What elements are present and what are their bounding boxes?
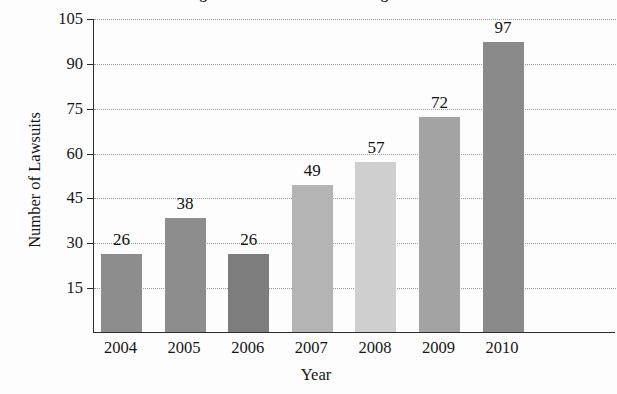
bar-value-label: 38 [177,195,194,212]
bar-value-label: 72 [431,94,448,111]
chart-title: Changes in Lawsuits Filed During the Yea… [0,0,617,3]
y-tick-mark [87,109,94,110]
bar[interactable] [165,218,206,332]
y-tick-label: 60 [67,145,84,162]
bar-slot: 49 [292,18,333,332]
x-tick-label: 2006 [231,338,264,358]
bar[interactable] [483,42,524,332]
bar-value-label: 26 [240,231,257,248]
y-tick-mark [87,243,94,244]
y-tick-mark [87,154,94,155]
bar[interactable] [228,254,269,332]
bar[interactable] [101,254,142,332]
y-tick-mark [87,198,94,199]
bar-slot: 72 [419,18,460,332]
y-axis-title: Number of Lawsuits [25,40,45,320]
bar-slot: 26 [228,18,269,332]
x-tick-label: 2004 [104,338,137,358]
bar-slot: 38 [165,18,206,332]
y-tick-label: 45 [67,190,84,207]
x-tick-label: 2010 [486,338,519,358]
bar-slot: 57 [355,18,396,332]
bar-slot: 97 [483,18,524,332]
y-tick-label: 75 [67,100,84,117]
bar-series: 26382649577297 [94,18,616,332]
bar-value-label: 97 [495,19,512,36]
y-tick-label: 30 [67,235,84,252]
plot-area: 153045607590105 26382649577297 [93,19,615,333]
bar[interactable] [419,117,460,332]
bar-chart: Changes in Lawsuits Filed During the Yea… [0,0,617,394]
y-tick-mark [87,64,94,65]
bar[interactable] [292,185,333,332]
chart-title-clipped: Changes in Lawsuits Filed During the Yea… [0,0,617,6]
bar-value-label: 49 [304,162,321,179]
y-tick-label: 105 [58,11,83,28]
bar-slot: 26 [101,18,142,332]
x-tick-label: 2005 [168,338,201,358]
x-axis-title: Year [93,365,539,385]
y-tick-mark [87,19,94,20]
x-tick-label: 2008 [358,338,391,358]
y-tick-label: 15 [67,280,84,297]
bar[interactable] [355,162,396,332]
bar-value-label: 26 [113,231,130,248]
x-tick-label: 2007 [295,338,328,358]
bar-value-label: 57 [367,139,384,156]
y-tick-label: 90 [67,56,84,73]
x-tick-label: 2009 [422,338,455,358]
y-tick-mark [87,288,94,289]
